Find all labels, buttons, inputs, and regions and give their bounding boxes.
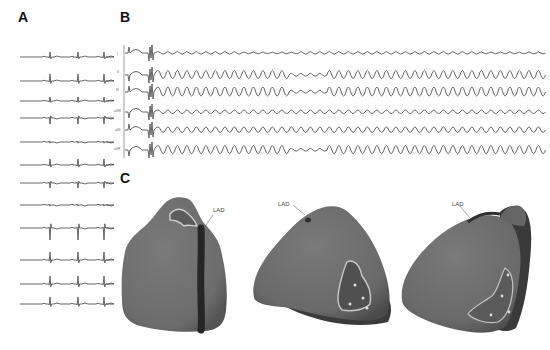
heart-anterior-view: LAD [122,197,227,331]
lad-arrow [293,205,305,215]
lad-arrow [204,215,213,228]
heart-inferior-view: LAD [253,201,391,325]
lad-label: LAD [452,201,464,207]
scar-marker [508,311,511,314]
scar-marker [507,274,510,277]
lad-label: LAD [213,207,225,213]
scar-marker [362,297,365,300]
scar-marker [501,295,504,298]
lad-label: LAD [278,201,290,207]
lad-arrow [460,206,470,218]
scar-marker [490,314,493,317]
panel-c-heart-maps: LAD LAD LAD [0,0,550,350]
scar-marker [349,303,352,306]
lad-vessel [201,228,202,330]
lad-vessel [305,218,311,223]
scar-marker [354,284,357,287]
scar-marker [366,307,369,310]
heart-lateral-view: LAD [402,201,532,333]
